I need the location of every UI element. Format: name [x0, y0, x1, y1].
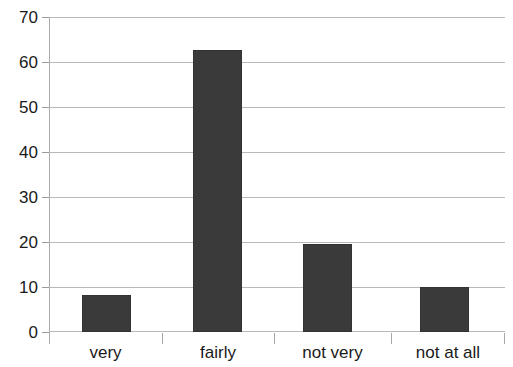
bar-not-at-all — [420, 287, 469, 332]
y-axis-tick-mark — [42, 62, 49, 63]
bar-fairly — [193, 50, 242, 332]
y-axis-tick-label: 50 — [0, 99, 38, 116]
y-axis-tick-label: 10 — [0, 279, 38, 296]
gridline — [49, 107, 505, 108]
y-axis-tick-label: 70 — [0, 9, 38, 26]
y-axis-tick-mark — [42, 152, 49, 153]
bar-not-very — [303, 244, 352, 332]
y-axis-tick-label: 30 — [0, 189, 38, 206]
x-axis-category-label: fairly — [162, 343, 274, 363]
y-axis-tick-mark — [42, 17, 49, 18]
y-axis-tick-label: 40 — [0, 144, 38, 161]
y-axis-tick-mark — [42, 332, 49, 333]
gridline — [49, 242, 505, 243]
bar-very — [82, 295, 131, 332]
x-axis-category-label: very — [49, 343, 162, 363]
bar-chart: 70 60 50 40 30 20 10 0 very fai — [0, 0, 513, 367]
gridline — [49, 197, 505, 198]
gridline — [49, 62, 505, 63]
y-axis-tick-mark — [42, 107, 49, 108]
y-axis-tick-label: 0 — [0, 324, 38, 341]
y-axis-tick-label: 60 — [0, 54, 38, 71]
plot-area — [49, 17, 505, 332]
x-axis-category-label: not very — [274, 343, 391, 363]
x-axis-category-label: not at all — [391, 343, 505, 363]
gridline — [49, 152, 505, 153]
y-axis-tick-mark — [42, 287, 49, 288]
y-axis-tick-label: 20 — [0, 234, 38, 251]
y-axis-tick-mark — [42, 197, 49, 198]
gridline — [49, 17, 505, 18]
y-axis-labels: 70 60 50 40 30 20 10 0 — [0, 0, 40, 367]
y-axis-tick-mark — [42, 242, 49, 243]
